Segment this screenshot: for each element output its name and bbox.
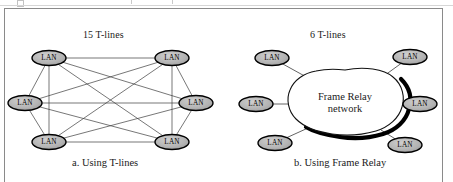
cloud-label-line1: Frame Relay [305, 91, 385, 103]
cloud-label-line2: network [305, 103, 385, 115]
lan-label-b2: LAN [393, 53, 427, 61]
lan-label-b1: LAN [255, 54, 289, 62]
panel-a-heading: 15 T-lines [83, 29, 124, 40]
lan-label-a4: LAN [179, 99, 213, 107]
lan-label-a3: LAN [8, 99, 42, 107]
lan-label-b3: LAN [239, 100, 273, 108]
figure-page: 15 T-lines a. Using T-lines 6 T-lines b.… [0, 0, 453, 182]
panel-b-heading: 6 T-lines [310, 29, 346, 40]
lan-label-b4: LAN [403, 100, 437, 108]
lan-label-a6: LAN [155, 138, 189, 146]
panel-a-links [25, 58, 196, 142]
panel-a-caption: a. Using T-lines [72, 157, 138, 168]
diagram-canvas [0, 0, 453, 182]
lan-label-a5: LAN [32, 138, 66, 146]
lan-label-a2: LAN [155, 54, 189, 62]
lan-label-b5: LAN [258, 139, 292, 147]
lan-label-a1: LAN [32, 54, 66, 62]
panel-b-caption: b. Using Frame Relay [294, 157, 386, 168]
cloud-label: Frame Relay network [305, 91, 385, 115]
lan-label-b6: LAN [388, 141, 422, 149]
